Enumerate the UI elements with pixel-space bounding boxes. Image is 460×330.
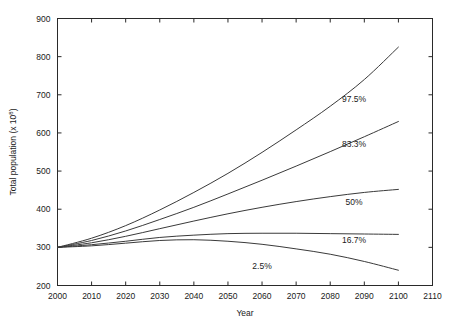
x-tick-label: 2100 xyxy=(389,291,408,301)
x-axis-tick-labels: 2000201020202030204020502060207020802090… xyxy=(48,291,442,301)
y-tick-label: 800 xyxy=(36,52,50,62)
x-axis-title: Year xyxy=(236,308,253,318)
y-tick-label: 700 xyxy=(36,90,50,100)
plot-frame xyxy=(58,19,433,286)
x-tick-label: 2020 xyxy=(116,291,135,301)
x-tick-label: 2090 xyxy=(355,291,374,301)
series-label-50: 50% xyxy=(346,197,363,207)
series-label-167: 16.7% xyxy=(342,235,367,245)
x-tick-label: 2050 xyxy=(218,291,237,301)
x-tick-label: 2110 xyxy=(423,291,442,301)
y-tick-label: 900 xyxy=(36,14,50,24)
y-axis-title-close: ) xyxy=(8,108,18,111)
chart-canvas: 200300400500600700800900 200020102020203… xyxy=(0,0,460,330)
y-axis-title: Total population (x 108) xyxy=(8,108,18,195)
x-tick-label: 2040 xyxy=(184,291,203,301)
x-tick-label: 2030 xyxy=(150,291,169,301)
population-projection-chart: 200300400500600700800900 200020102020203… xyxy=(0,0,460,330)
y-tick-label: 300 xyxy=(36,242,50,252)
x-tick-label: 2000 xyxy=(48,291,67,301)
y-tick-label: 500 xyxy=(36,166,50,176)
y-axis-tick-labels: 200300400500600700800900 xyxy=(36,14,50,291)
y-tick-label: 600 xyxy=(36,128,50,138)
y-axis-title-main: Total population (x 10 xyxy=(8,114,18,195)
axis-tickmarks xyxy=(58,19,433,286)
x-tick-label: 2080 xyxy=(321,291,340,301)
series-label-833: 83.3% xyxy=(342,139,367,149)
y-tick-label: 200 xyxy=(36,281,50,291)
x-tick-label: 2060 xyxy=(253,291,272,301)
x-tick-label: 2010 xyxy=(82,291,101,301)
y-tick-label: 400 xyxy=(36,204,50,214)
x-tick-label: 2070 xyxy=(287,291,306,301)
series-label-975: 97.5% xyxy=(342,94,367,104)
series-label-25: 2.5% xyxy=(252,261,272,271)
